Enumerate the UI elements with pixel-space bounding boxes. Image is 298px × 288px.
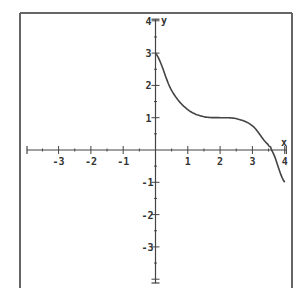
y-tick-label: -2 (142, 210, 154, 221)
y-axis-label: y (161, 15, 167, 26)
y-tick-label: -1 (142, 177, 154, 188)
y-tick-label: 2 (146, 80, 152, 91)
x-tick-label: -2 (85, 156, 97, 167)
y-tick-label: 1 (146, 113, 152, 124)
x-tick-label: 4 (282, 156, 288, 167)
tick-labels: -3-2-112344321-1-2-3 (53, 16, 288, 253)
x-tick-label: -3 (53, 156, 65, 167)
y-tick-label: 3 (146, 48, 152, 59)
y-tick-label: 4 (146, 16, 152, 27)
x-tick-label: 1 (185, 156, 191, 167)
x-tick-label: 3 (249, 156, 255, 167)
x-tick-label: 2 (217, 156, 223, 167)
axes (27, 19, 286, 283)
y-tick-label: -3 (142, 242, 154, 253)
graph-plot: -3-2-112344321-1-2-3 x y (0, 0, 298, 288)
x-tick-label: -1 (117, 156, 129, 167)
x-axis-label: x (281, 137, 287, 148)
